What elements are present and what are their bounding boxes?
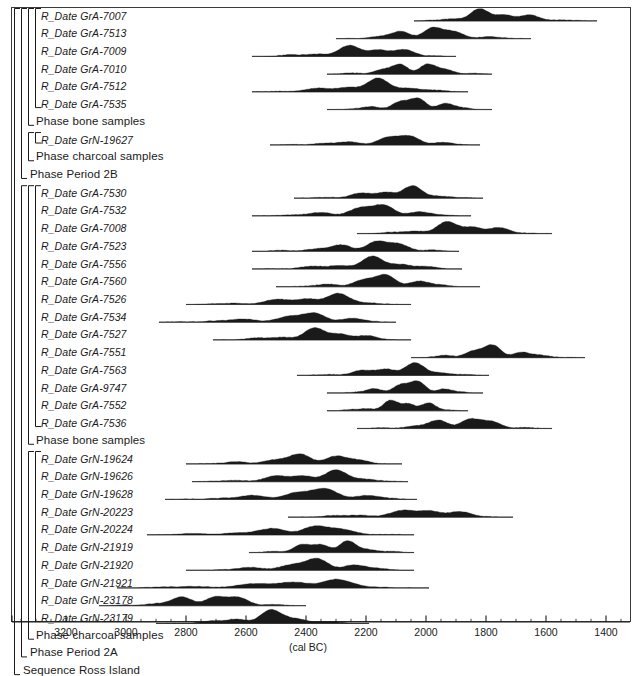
axis-tick-label: 3000 [106, 626, 146, 638]
row-label-rdate[interactable]: R_Date GrA-7527 [41, 328, 127, 340]
distribution-curve [294, 185, 483, 198]
distribution-curve [327, 64, 492, 74]
row-label-rdate[interactable]: R_Date GrA-9747 [41, 382, 127, 394]
row-label-phase-period[interactable]: Phase Period 2B [30, 168, 118, 180]
axis-tick-label: 2200 [346, 626, 386, 638]
row-label-rdate[interactable]: R_Date GrA-7526 [41, 293, 127, 305]
distribution-curve [186, 293, 411, 304]
row-label-rdate[interactable]: R_Date GrA-7536 [41, 417, 127, 429]
distribution-curve [252, 78, 468, 92]
bracket-phase-period-2a [22, 186, 28, 657]
distribution-curve [288, 510, 513, 517]
row-label-rdate[interactable]: R_Date GrA-7513 [41, 27, 127, 39]
axis-tick-label: 2600 [226, 626, 266, 638]
row-label-rdate[interactable]: R_Date GrN-19626 [41, 470, 133, 482]
distribution-curve [165, 488, 417, 499]
distribution-curve [156, 609, 369, 623]
row-label-rdate[interactable]: R_Date GrA-7532 [41, 204, 127, 216]
bracket-sequence-ross-island [15, 9, 21, 675]
row-label-rdate[interactable]: R_Date GrA-7556 [41, 258, 127, 270]
distribution-curve [357, 221, 552, 233]
row-label-rdate[interactable]: R_Date GrN-19628 [41, 488, 133, 500]
row-label-rdate[interactable]: R_Date GrA-7551 [41, 346, 127, 358]
row-label-rdate[interactable]: R_Date GrA-7007 [41, 10, 127, 22]
axis-tick-label: 2400 [286, 626, 326, 638]
row-label-rdate[interactable]: R_Date GrA-7530 [41, 187, 127, 199]
bracket-bone-samples-2b [29, 9, 35, 126]
row-label-rdate[interactable]: R_Date GrA-7534 [41, 311, 127, 323]
bracket-dates-bone-2b [36, 9, 42, 108]
row-label-rdate[interactable]: R_Date GrN-23178 [41, 594, 133, 606]
distribution-curve [159, 313, 396, 323]
bracket-phase-period-2b [22, 9, 28, 179]
distribution-curve [249, 541, 414, 553]
distribution-curve [252, 45, 456, 56]
axis-title: (cal BC) [289, 641, 327, 653]
row-label-phase-group[interactable]: Phase charcoal samples [36, 150, 164, 162]
distribution-curve [186, 454, 402, 464]
row-label-rdate[interactable]: R_Date GrA-7512 [41, 80, 127, 92]
distribution-curve [336, 27, 531, 39]
row-label-rdate[interactable]: R_Date GrN-19627 [41, 134, 133, 146]
bracket-charcoal-samples-2a [29, 452, 35, 640]
row-label-rdate[interactable]: R_Date GrA-7010 [41, 63, 127, 75]
distribution-curve [276, 274, 480, 287]
distribution-curve [117, 579, 429, 588]
row-label-sequence[interactable]: Sequence Ross Island [23, 664, 140, 676]
row-label-rdate[interactable]: R_Date GrA-7523 [41, 240, 127, 252]
distribution-curve [414, 9, 597, 21]
distribution-curve [411, 345, 585, 358]
row-label-rdate[interactable]: R_Date GrA-7008 [41, 222, 127, 234]
distribution-curve [252, 256, 462, 269]
distribution-curve [213, 327, 411, 340]
axis-tick-label: 3200 [46, 626, 86, 638]
row-label-rdate[interactable]: R_Date GrA-7560 [41, 275, 127, 287]
axis-tick-label: 2000 [406, 626, 446, 638]
bracket-bone-samples-2a [29, 186, 35, 445]
distribution-curve [327, 381, 483, 393]
row-label-rdate[interactable]: R_Date GrA-7552 [41, 399, 127, 411]
distribution-curve [186, 558, 414, 570]
row-label-rdate[interactable]: R_Date GrN-20223 [41, 506, 133, 518]
distribution-curve [147, 526, 414, 535]
row-label-rdate[interactable]: R_Date GrA-7009 [41, 45, 127, 57]
distribution-curve [270, 135, 480, 145]
distribution-curve [252, 204, 471, 216]
distribution-curve [327, 98, 492, 110]
row-label-rdate[interactable]: R_Date GrN-21921 [41, 577, 133, 589]
axis-tick-label: 1800 [466, 626, 506, 638]
oxcal-plot-figure: R_Date GrA-7007R_Date GrA-7513R_Date GrA… [0, 0, 640, 676]
row-label-rdate[interactable]: R_Date GrA-7563 [41, 364, 127, 376]
bracket-charcoal-samples-2b [29, 133, 35, 161]
axis-tick-label: 1400 [586, 626, 626, 638]
axis-tick-label: 2800 [166, 626, 206, 638]
distribution-curve [252, 241, 459, 252]
row-label-phase-group[interactable]: Phase bone samples [36, 434, 145, 446]
row-label-rdate[interactable]: R_Date GrA-7535 [41, 98, 127, 110]
row-label-rdate[interactable]: R_Date GrN-20224 [41, 523, 133, 535]
row-label-rdate[interactable]: R_Date GrN-19624 [41, 453, 133, 465]
row-label-rdate[interactable]: R_Date GrN-21919 [41, 541, 133, 553]
distribution-curve [327, 400, 468, 411]
axis-tick-label: 1600 [526, 626, 566, 638]
row-label-phase-group[interactable]: Phase bone samples [36, 115, 145, 127]
distribution-curve [192, 470, 408, 482]
distribution-curve [297, 363, 489, 376]
distribution-curve [357, 418, 552, 428]
row-label-phase-period[interactable]: Phase Period 2A [30, 646, 118, 658]
row-label-rdate[interactable]: R_Date GrN-21920 [41, 559, 133, 571]
row-label-rdate[interactable]: R_Date GrN-23179 [41, 612, 133, 624]
